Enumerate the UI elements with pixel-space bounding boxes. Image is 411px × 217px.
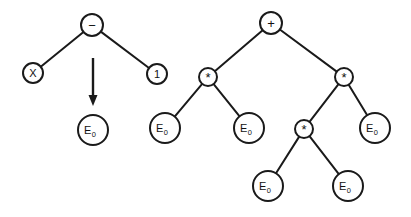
tree-edge <box>309 136 338 174</box>
tree-edge <box>41 32 84 67</box>
node-label: X <box>29 67 37 79</box>
tree-nodes-layer: −X1E0+**E0E0*E0E0E0 <box>23 12 390 201</box>
node-label: − <box>88 18 96 33</box>
tree-edge <box>349 85 368 115</box>
tree-edge <box>175 84 203 117</box>
node-label-subscript: 0 <box>374 127 378 136</box>
node-label: * <box>205 70 210 85</box>
node-label-subscript: 0 <box>92 129 96 138</box>
tree-edge <box>276 137 299 174</box>
rewrite-arrow <box>89 58 98 106</box>
tree-node-operator: + <box>260 12 282 34</box>
tree-node-operator: * <box>335 68 353 86</box>
tree-node-terminal: X <box>23 63 43 83</box>
tree-node-nonterminal: E0 <box>78 115 108 145</box>
node-label-subscript: 0 <box>347 185 351 194</box>
node-label-subscript: 0 <box>248 127 252 136</box>
node-label: 1 <box>154 68 160 80</box>
tree-node-terminal: 1 <box>147 64 167 84</box>
tree-node-nonterminal: E0 <box>150 113 180 143</box>
tree-node-nonterminal: E0 <box>253 171 283 201</box>
tree-edge <box>309 84 338 122</box>
tree-edge <box>215 30 263 71</box>
tree-edge <box>101 32 149 68</box>
tree-node-nonterminal: E0 <box>333 171 363 201</box>
node-label: + <box>267 16 275 31</box>
tree-node-nonterminal: E0 <box>234 113 264 143</box>
tree-edges-layer <box>41 30 367 175</box>
arrow-head-icon <box>89 95 98 106</box>
node-label-subscript: 0 <box>164 127 168 136</box>
node-label: * <box>341 70 346 85</box>
node-label: * <box>301 122 306 137</box>
tree-node-nonterminal: E0 <box>360 113 390 143</box>
tree-node-operator: − <box>81 14 103 36</box>
tree-node-operator: * <box>199 68 217 86</box>
expression-tree-diagram: −X1E0+**E0E0*E0E0E0 <box>0 0 411 217</box>
tree-edge <box>280 30 337 72</box>
node-label-subscript: 0 <box>267 185 271 194</box>
diagram-canvas: −X1E0+**E0E0*E0E0E0 <box>0 0 411 217</box>
tree-node-operator: * <box>295 120 313 138</box>
tree-edge <box>214 84 240 116</box>
